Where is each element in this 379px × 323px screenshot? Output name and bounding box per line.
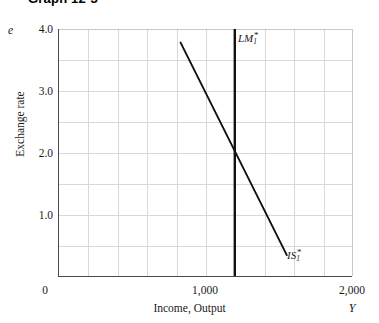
y-tick-label-2: 2.0: [39, 148, 53, 160]
y-tick-label-4: 4.0: [39, 24, 53, 36]
y-tick-label-3: 3.0: [39, 86, 53, 98]
y-axis-group: e 4.0 3.0 2.0 1.0 Exchange rate: [0, 0, 53, 323]
lm-curve-label: LM1*: [238, 33, 262, 44]
x-tick-label-0: 0: [42, 284, 48, 296]
y-axis-variable-symbol: e: [8, 24, 13, 36]
is-curve-label: IS1*: [287, 250, 304, 261]
x-tick-label-2000: 2,000: [339, 284, 365, 296]
gridline-vertical-right-edge: [352, 29, 353, 276]
curve-layer: [59, 29, 352, 276]
y-tick-label-1: 1.0: [39, 210, 53, 222]
plot-area: [58, 29, 352, 277]
y-axis-title: Exchange rate: [14, 59, 26, 189]
x-axis-title: Income, Output: [0, 302, 379, 314]
x-tick-label-1000: 1,000: [192, 284, 218, 296]
x-axis-variable-symbol: Y: [349, 301, 356, 316]
